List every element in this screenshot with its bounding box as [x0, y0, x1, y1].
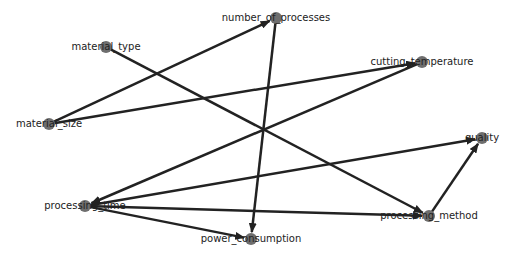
edge-material-size-to-number-of-processes	[51, 21, 270, 123]
node-label-quality: quality	[465, 133, 499, 143]
node-label-processing-time: processing_time	[44, 201, 125, 211]
edge-processing-time-to-quality	[87, 139, 475, 205]
node-label-material-size: material_size	[16, 119, 82, 129]
edge-cutting-temperature-to-processing-time	[91, 63, 420, 203]
node-label-processing-method: processing_method	[380, 211, 478, 221]
node-label-number-of-processes: number_of_processes	[222, 13, 330, 23]
node-label-power-consumption: power_consumption	[201, 234, 302, 244]
node-label-material-type: material_type	[71, 42, 140, 52]
edge-processing-method-to-quality	[430, 144, 478, 215]
node-label-cutting-temperature: cutting_temperature	[371, 57, 474, 67]
edge-material-type-to-processing-method	[108, 48, 423, 213]
